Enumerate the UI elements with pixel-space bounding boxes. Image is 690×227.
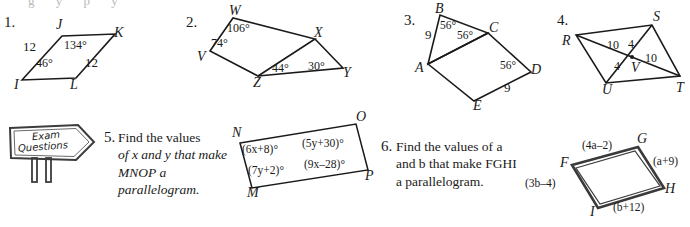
vertex-label-M: M [247, 186, 259, 200]
segment-length-4-lower-left: 4 [614, 60, 620, 72]
vertex-label-V: V [197, 50, 206, 64]
vertex-label-S: S [653, 10, 660, 24]
figure-triangle-abc-parallelogram-acde: B C A D E 9 56° 56° 56° 9 [400, 2, 550, 112]
vertex-label-D: D [531, 63, 541, 77]
angle-label-56-at-D: 56° [500, 60, 516, 72]
vertex-label-E: E [473, 99, 482, 113]
vertex-label-I: I [590, 205, 595, 219]
angle-label-44: 44° [272, 62, 289, 74]
angle-label-74: 74° [211, 37, 228, 49]
side-length-12-right: 12 [85, 56, 98, 69]
vertex-label-Y: Y [343, 66, 351, 80]
vertex-label-I: I [14, 78, 19, 92]
figure-parallelogram-vwxz: W X V Z Y 106° 74° 44° 30° [180, 4, 355, 96]
expression-b-plus-12: (b+12) [613, 202, 644, 214]
figure-parallelogram-mnop: N O M P (6x+8)° (5y+30)° (7y+2)° (9x–28)… [232, 116, 377, 202]
vertex-label-C: C [489, 21, 498, 35]
vertex-label-F: F [560, 156, 569, 170]
vertex-label-V: V [631, 61, 640, 75]
vertex-label-W: W [229, 4, 241, 18]
problem-6-number: 6. [381, 138, 392, 155]
angle-label-56-at-B: 56° [440, 20, 456, 32]
problem-5-prompt-line-1: Find the values [118, 129, 240, 146]
vertex-label-H: H [665, 182, 675, 196]
segment-length-4-upper-right: 4 [628, 38, 634, 50]
segment-length-10-upper-left: 10 [607, 39, 619, 51]
expression-3b-minus-4: (3b–4) [525, 178, 556, 190]
angle-label-30: 30° [308, 60, 325, 72]
expression-6x-plus-8: (6x+8)° [242, 144, 278, 156]
vertex-label-U: U [602, 83, 612, 97]
expression-4a-minus-2: (4a–2) [582, 140, 612, 152]
vertex-label-N: N [232, 126, 241, 140]
problem-6-prompt: Find the values of a and b that make FGH… [396, 138, 532, 190]
problem-5-prompt-line-2: of x and y that make [118, 146, 240, 163]
expression-a-plus-9: (a+9) [653, 156, 678, 168]
expression-9x-minus-28: (9x–28)° [304, 159, 345, 171]
vertex-label-R: R [562, 34, 571, 48]
clipped-top-text: g y p y [28, 0, 127, 9]
side-length-9-lower: 9 [504, 81, 511, 94]
expression-7y-plus-2: (7y+2)° [248, 165, 284, 177]
problem-5-prompt: Find the values of x and y that make MNO… [118, 129, 240, 198]
figure-parallelogram-fghi: F G H I (4a–2) (a+9) (3b–4) (b+12) [520, 110, 690, 222]
vertex-label-O: O [356, 110, 366, 124]
figure-parallelogram-rstu: R S V U T 10 4 4 10 [552, 4, 690, 104]
vertex-label-G: G [637, 132, 647, 146]
vertex-label-J: J [56, 18, 62, 32]
vertex-label-Z: Z [253, 76, 261, 90]
worksheet-page: g y p y 1. I J K L 12 134° 46° 12 2. W X… [0, 0, 690, 227]
segment-length-10-lower-right: 10 [645, 52, 657, 64]
side-length-12-left: 12 [23, 40, 36, 53]
vertex-label-X: X [314, 26, 323, 40]
vertex-label-L: L [70, 78, 78, 92]
angle-label-46: 46° [36, 57, 53, 69]
problem-6-prompt-line-2: and b that make FGHI [396, 155, 532, 172]
exam-questions-signpost: Exam Questions [6, 118, 102, 184]
vertex-label-K: K [114, 26, 123, 40]
vertex-label-P: P [365, 169, 374, 183]
angle-label-106: 106° [227, 22, 250, 34]
expression-5y-plus-30: (5y+30)° [302, 138, 344, 150]
figure-parallelogram-ijkl: I J K L 12 134° 46° 12 [0, 10, 180, 95]
angle-label-56-at-C: 56° [457, 30, 473, 42]
problem-5-prompt-line-3: MNOP a parallelogram. [118, 164, 240, 199]
vertex-label-A: A [415, 61, 424, 75]
problem-6-prompt-line-3: a parallelogram. [396, 173, 532, 190]
vertex-label-B: B [435, 2, 444, 16]
problem-6-prompt-line-1: Find the values of a [396, 138, 532, 155]
vertex-label-T: T [676, 81, 684, 95]
side-length-9-upper: 9 [425, 28, 432, 41]
problem-5-number: 5. [104, 129, 115, 146]
angle-label-134: 134° [64, 39, 87, 51]
